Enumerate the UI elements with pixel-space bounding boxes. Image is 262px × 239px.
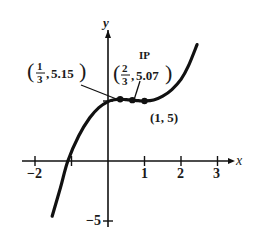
point-label-one: (1, 5) xyxy=(150,110,178,125)
chart-canvas: x y −2 1 2 3 −5 ( 1 3 , 5.15 ) IP ( 2 3 … xyxy=(0,0,262,239)
axes xyxy=(22,30,235,227)
x-axis-arrow-icon xyxy=(228,158,235,164)
y-axis-arrow-icon xyxy=(105,30,111,38)
x-tick-label-3: 3 xyxy=(213,166,220,181)
point-y-value: 5.07 xyxy=(136,68,159,83)
x-tick-label-2: 2 xyxy=(177,166,184,181)
frac-den: 3 xyxy=(37,73,43,85)
paren-close: ) xyxy=(79,58,86,83)
point-label-one-third: ( 1 3 , 5.15 ) xyxy=(27,58,86,85)
y-axis-label: y xyxy=(101,15,109,30)
leader-line-one-third xyxy=(81,85,119,100)
paren-close: ) xyxy=(165,60,172,85)
ip-annotation: IP xyxy=(139,49,150,61)
paren-open: ( xyxy=(27,58,34,83)
point-y-value: 5.15 xyxy=(51,66,74,81)
x-tick-label-1: 1 xyxy=(141,166,148,181)
frac-den: 3 xyxy=(122,75,128,87)
frac-num: 1 xyxy=(37,60,43,72)
x-axis-label: x xyxy=(235,153,243,168)
point-label-two-thirds: IP ( 2 3 , 5.07 ) xyxy=(113,49,172,87)
paren-open: ( xyxy=(113,60,120,85)
y-tick-label-neg5: −5 xyxy=(86,213,101,228)
points xyxy=(117,96,148,104)
x-tick-label-neg2: −2 xyxy=(27,166,42,181)
leader-line-two-thirds xyxy=(134,81,140,100)
comma: , xyxy=(46,66,49,81)
comma: , xyxy=(131,68,134,83)
frac-num: 2 xyxy=(122,62,128,74)
data-point-2 xyxy=(141,98,147,104)
